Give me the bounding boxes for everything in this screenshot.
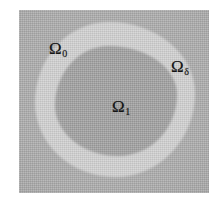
label-omega-outer: Ω0 <box>49 40 67 59</box>
label-omega-middle-symbol: Ω <box>171 57 184 76</box>
domain-figure: Ω0 Ωδ Ω1 <box>0 0 222 203</box>
label-omega-inner-subscript: 1 <box>125 106 130 117</box>
outer-domain-region: Ω0 Ωδ Ω1 <box>19 10 209 193</box>
label-omega-middle: Ωδ <box>171 58 189 77</box>
label-omega-outer-subscript: 0 <box>62 48 67 59</box>
label-omega-middle-subscript: δ <box>184 66 189 77</box>
label-omega-inner-symbol: Ω <box>112 97 125 116</box>
label-omega-outer-symbol: Ω <box>49 39 62 58</box>
label-omega-inner: Ω1 <box>112 98 130 117</box>
